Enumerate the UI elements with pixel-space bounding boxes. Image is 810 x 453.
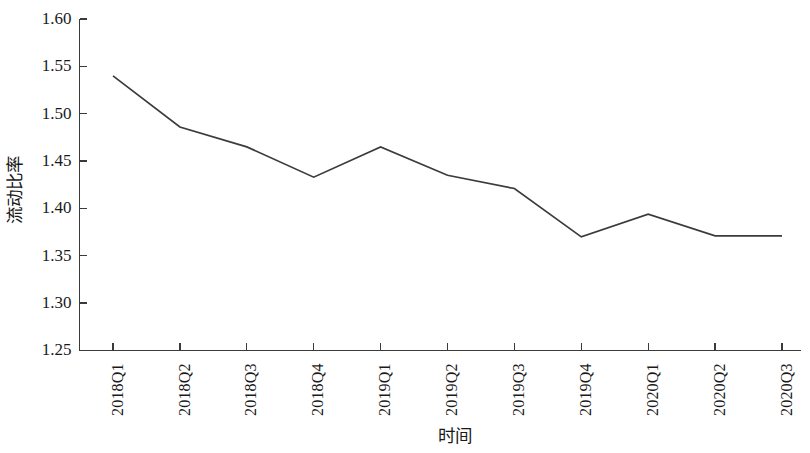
x-tick-label: 2020Q1 [644, 363, 661, 416]
y-tick-label: 1.55 [42, 56, 72, 75]
y-tick-label: 1.30 [42, 293, 72, 312]
y-tick-label: 1.50 [42, 104, 72, 123]
axes-group [80, 19, 802, 351]
line-chart: 1.601.551.501.451.401.351.301.25 2018Q12… [0, 0, 810, 453]
y-tick-label: 1.25 [42, 340, 72, 359]
y-tick-label: 1.45 [42, 151, 72, 170]
chart-canvas: 1.601.551.501.451.401.351.301.25 2018Q12… [0, 0, 810, 453]
x-tick-label: 2019Q2 [443, 363, 460, 416]
y-tick-label: 1.40 [42, 198, 72, 217]
x-tick-label: 2018Q3 [242, 363, 259, 416]
x-axis-ticks: 2018Q12018Q22018Q32018Q42019Q12019Q22019… [109, 343, 795, 417]
x-tick-label: 2018Q4 [309, 363, 326, 416]
x-tick-label: 2020Q3 [778, 363, 795, 416]
x-tick-label: 2019Q3 [510, 363, 527, 416]
x-tick-label: 2019Q4 [577, 363, 594, 416]
x-tick-label: 2019Q1 [376, 363, 393, 416]
series-line-liquidity-ratio [113, 76, 782, 237]
x-tick-label: 2020Q2 [711, 363, 728, 416]
x-tick-label: 2018Q1 [109, 363, 126, 416]
x-axis-title: 时间 [438, 426, 472, 446]
y-axis-title: 流动比率 [5, 156, 25, 224]
x-tick-label: 2018Q2 [176, 363, 193, 416]
y-tick-label: 1.60 [42, 9, 72, 28]
y-tick-label: 1.35 [42, 246, 72, 265]
